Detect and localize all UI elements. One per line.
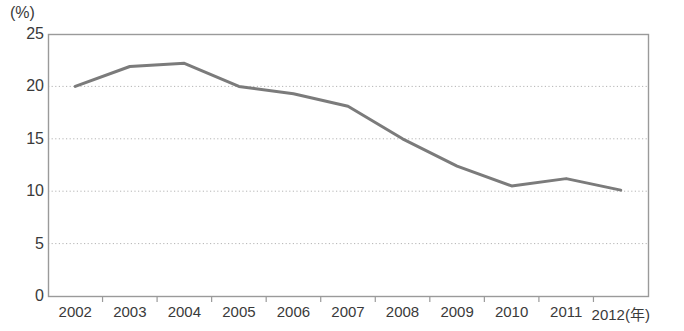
gridlines	[48, 86, 648, 243]
x-tick-label-2004: 2004	[168, 303, 201, 320]
x-tick-label-2011: 2011	[550, 303, 582, 320]
axes-rectangle	[49, 35, 649, 297]
plot-area	[0, 0, 684, 331]
series-polyline	[75, 63, 620, 190]
x-tick-label-2008: 2008	[386, 303, 419, 320]
x-tick-label-2009: 2009	[440, 303, 473, 320]
x-tick-label-2010: 2010	[495, 303, 528, 320]
x-tick-label-2005: 2005	[222, 303, 255, 320]
x-tick-label-2007: 2007	[331, 303, 364, 320]
data-line-series	[75, 63, 620, 190]
line-chart: (%) 0510152025 2002200320042005200620072…	[0, 0, 684, 331]
x-tick-label-2006: 2006	[277, 303, 310, 320]
x-tick-label-2003: 2003	[113, 303, 146, 320]
x-tick-label-2012: 2012(年)	[592, 303, 650, 324]
chart-frame	[49, 35, 649, 297]
x-tick-label-2002: 2002	[59, 303, 92, 320]
